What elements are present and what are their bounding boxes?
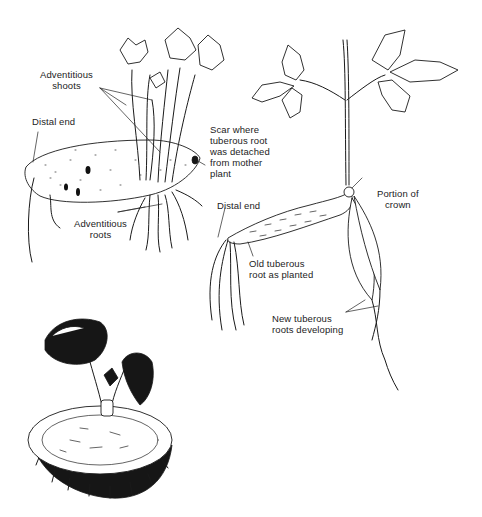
label-distal-end-sprouting: Distal end xyxy=(32,116,75,127)
label-old-tuberous-root: Old tuberous root as planted xyxy=(249,258,313,280)
label-scar: Scar where tuberous root was detached fr… xyxy=(210,124,270,179)
label-adventitious-roots: Adventitious roots xyxy=(74,218,127,240)
botanical-diagram: Adventitious shoots Distal end Scar wher… xyxy=(0,0,482,517)
tuber-slice-drawing xyxy=(28,319,172,498)
label-portion-of-crown: Portion of crown xyxy=(377,188,419,210)
label-distal-end-planted: Distal end xyxy=(217,200,260,211)
label-adventitious-shoots: Adventitious shoots xyxy=(40,69,93,91)
label-new-tuberous-roots: New tuberous roots developing xyxy=(272,313,343,335)
